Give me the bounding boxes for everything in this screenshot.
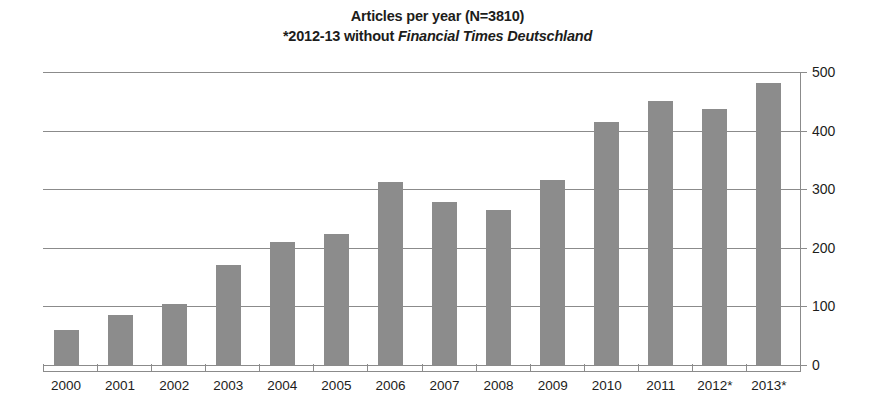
y-tick-300	[794, 189, 807, 190]
x-axis-label-2003: 2003	[198, 378, 258, 394]
chart-subtitle-emphasis: Financial Times Deutschland	[398, 28, 592, 44]
x-tick-9	[530, 364, 531, 372]
x-tick-7	[422, 364, 423, 372]
bar-2012-star	[702, 109, 727, 365]
y-axis-label-500: 500	[812, 65, 835, 79]
chart-subtitle-prefix: *2012-13 without	[283, 28, 398, 44]
gridline-400	[43, 131, 800, 132]
bar-2006	[378, 182, 403, 365]
bar-2005	[324, 234, 349, 365]
x-axis-label-2011: 2011	[631, 378, 691, 394]
x-tick-3	[205, 364, 206, 372]
bar-2004	[270, 242, 295, 365]
x-tick-12	[692, 364, 693, 372]
bar-2013-star	[756, 83, 781, 365]
x-axis-label-2004: 2004	[252, 378, 312, 394]
x-axis-label-2010: 2010	[577, 378, 637, 394]
x-tick-11	[638, 364, 639, 372]
x-tick-1	[97, 364, 98, 372]
x-axis-label-2006: 2006	[360, 378, 420, 394]
x-tick-2	[151, 364, 152, 372]
y-tick-100	[794, 306, 807, 307]
bar-2007	[432, 202, 457, 365]
x-axis-label-2009: 2009	[523, 378, 583, 394]
x-axis-label-2001: 2001	[90, 378, 150, 394]
bar-2008	[486, 210, 511, 365]
chart-title: Articles per year (N=3810)	[0, 6, 875, 26]
x-axis-label-2008: 2008	[469, 378, 529, 394]
x-tick-0	[43, 364, 44, 372]
x-tick-8	[476, 364, 477, 372]
x-tick-end	[800, 364, 801, 372]
y-axis-label-400: 400	[812, 124, 835, 138]
y-tick-200	[794, 248, 807, 249]
x-tick-13	[746, 364, 747, 372]
y-tick-500	[794, 72, 807, 73]
gridline-100	[43, 306, 800, 307]
x-axis-label-2002: 2002	[144, 378, 204, 394]
gridline-200	[43, 248, 800, 249]
bar-2001	[108, 315, 133, 365]
chart-title-block: Articles per year (N=3810) *2012-13 with…	[0, 6, 875, 46]
bar-2000	[54, 330, 79, 365]
bar-2002	[162, 304, 187, 365]
y-axis-label-100: 100	[812, 299, 835, 313]
chart-figure: Articles per year (N=3810) *2012-13 with…	[0, 0, 875, 409]
x-tick-5	[313, 364, 314, 372]
y-axis-label-0: 0	[812, 358, 820, 372]
plot-area	[43, 72, 800, 365]
gridline-500	[43, 72, 800, 73]
x-tick-4	[259, 364, 260, 372]
bar-2010	[594, 122, 619, 365]
x-axis-label-2013-star: 2013*	[739, 378, 799, 394]
x-axis-label-2000: 2000	[36, 378, 96, 394]
bar-2003	[216, 265, 241, 365]
chart-subtitle: *2012-13 without Financial Times Deutsch…	[0, 26, 875, 46]
y-tick-400	[794, 131, 807, 132]
x-tick-6	[367, 364, 368, 372]
x-tick-10	[584, 364, 585, 372]
bar-2011	[648, 101, 673, 365]
x-axis-label-2005: 2005	[306, 378, 366, 394]
y-axis-label-300: 300	[812, 182, 835, 196]
y-axis-label-200: 200	[812, 241, 835, 255]
bar-2009	[540, 180, 565, 365]
y-axis-spine	[800, 72, 801, 366]
x-axis-label-2007: 2007	[415, 378, 475, 394]
gridline-300	[43, 189, 800, 190]
x-axis-label-2012-star: 2012*	[685, 378, 745, 394]
